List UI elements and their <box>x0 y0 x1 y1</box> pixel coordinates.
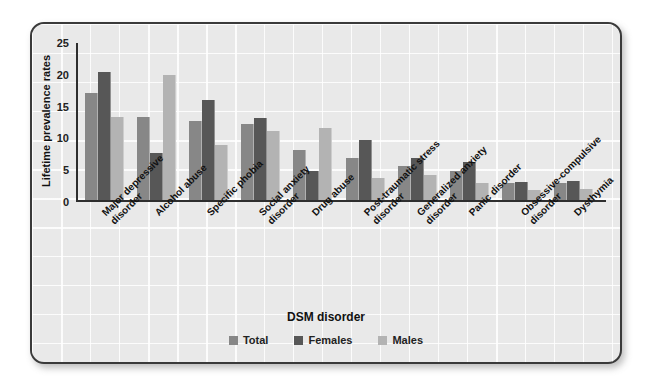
x-tick-label: Generalized anxiety disorder <box>414 210 431 227</box>
bar-females <box>202 100 215 200</box>
y-tick-label: 10 <box>31 132 76 144</box>
x-tick-label: Major depressive disorder <box>100 210 117 227</box>
chart-figure: Lifetime prevalence rates 0510152025 Maj… <box>30 22 622 364</box>
bar-groups <box>78 43 600 200</box>
bar-group <box>78 43 130 200</box>
chart-legend: TotalFemalesMales <box>32 334 620 346</box>
y-tick-label: 0 <box>31 196 76 208</box>
bar-females <box>515 182 528 200</box>
y-tick-label: 5 <box>31 164 76 176</box>
x-tick-label: Post-traumatic stress disorder <box>362 210 379 227</box>
bar-females <box>567 181 580 200</box>
legend-label: Total <box>243 334 268 346</box>
legend-item: Total <box>229 334 268 346</box>
bar-females <box>98 72 111 200</box>
bar-total <box>189 121 202 200</box>
bar-males <box>163 75 176 200</box>
x-tick-label: Social anxiety disorder <box>257 210 274 227</box>
legend-item: Males <box>378 334 423 346</box>
legend-swatch-males <box>378 336 387 345</box>
legend-label: Females <box>308 334 352 346</box>
bar-total <box>85 93 98 200</box>
legend-item: Females <box>294 334 352 346</box>
legend-swatch-total <box>229 336 238 345</box>
bar-total <box>137 117 150 200</box>
x-tick-label: Alcohol abuse <box>152 210 160 218</box>
y-tick-label: 20 <box>31 69 76 81</box>
x-tick-label: Dysthymia <box>572 210 580 218</box>
x-tick-label: Specific phobia <box>205 210 213 218</box>
x-axis-title: DSM disorder <box>32 310 620 324</box>
x-axis-tick-labels: Major depressive disorderAlcohol abuseSp… <box>78 206 602 306</box>
legend-label: Males <box>392 334 423 346</box>
bar-females <box>359 140 372 200</box>
bar-females <box>306 171 319 200</box>
x-tick-label: Drug abuse <box>310 210 318 218</box>
y-tick-label: 25 <box>31 37 76 49</box>
x-tick-label: Obsessive-compulsive disorder <box>519 210 536 227</box>
x-tick-label: Panic disorder <box>467 210 475 218</box>
plot-area: Lifetime prevalence rates 0510152025 <box>76 43 600 202</box>
y-tick-label: 15 <box>31 101 76 113</box>
legend-swatch-females <box>294 336 303 345</box>
